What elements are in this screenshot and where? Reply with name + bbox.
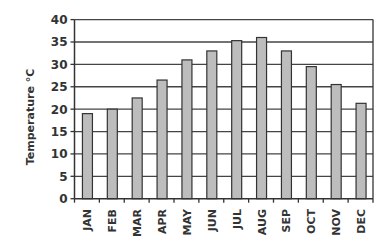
bar-feb: [107, 109, 117, 199]
y-tick-label: 40: [51, 13, 68, 27]
bar-jul: [232, 41, 242, 199]
x-tick-label-mar: MAR: [131, 208, 144, 236]
x-tick-label-jul: JUL: [231, 209, 244, 230]
bar-jun: [207, 51, 217, 199]
y-axis-label: Temperature °C: [24, 69, 37, 166]
x-tick-label-jun: JUN: [206, 209, 219, 232]
y-tick-labels: 0510152025303540: [51, 13, 68, 206]
bar-aug: [257, 38, 267, 199]
x-tick-labels: JANFEBMARAPRMAYJUNJULAUGSEPOCTNOVDEC: [81, 208, 368, 237]
bar-may: [182, 60, 192, 199]
y-tick-label: 0: [59, 192, 67, 206]
bar-oct: [306, 67, 316, 199]
bar-apr: [157, 80, 167, 199]
y-tick-label: 30: [51, 58, 68, 72]
x-tick-label-nov: NOV: [330, 209, 343, 236]
x-tick-label-aug: AUG: [256, 209, 269, 235]
temperature-bar-chart: 0510152025303540 JANFEBMARAPRMAYJUNJULAU…: [0, 0, 391, 249]
bar-dec: [356, 103, 366, 198]
x-tick-label-oct: OCT: [305, 209, 318, 234]
bar-nov: [331, 85, 341, 199]
y-tick-label: 35: [51, 35, 68, 49]
x-tick-label-sep: SEP: [280, 209, 293, 233]
y-tick-label: 5: [59, 170, 67, 184]
x-tick-label-apr: APR: [156, 208, 169, 234]
x-tick-label-may: MAY: [181, 208, 194, 235]
x-tick-label-feb: FEB: [106, 209, 119, 232]
x-tick-label-jan: JAN: [81, 209, 94, 232]
bars: [82, 38, 366, 199]
y-tick-label: 10: [51, 147, 68, 161]
y-tick-label: 20: [51, 103, 68, 117]
x-tick-label-dec: DEC: [355, 209, 368, 234]
bar-mar: [132, 98, 142, 199]
y-tick-label: 25: [51, 80, 68, 94]
bar-sep: [281, 51, 291, 199]
bar-jan: [82, 114, 92, 199]
y-tick-label: 15: [51, 125, 68, 139]
